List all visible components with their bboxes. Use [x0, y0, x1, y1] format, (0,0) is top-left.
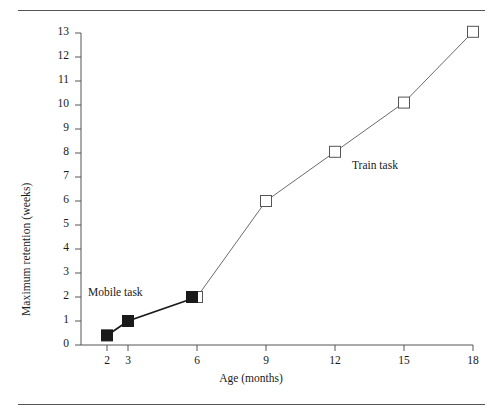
figure-container: Maximum retention (weeks) Age (months) 0… [0, 0, 502, 414]
y-tick-label: 4 [47, 241, 69, 253]
axes-group [81, 33, 473, 345]
data-point-train-task [261, 196, 272, 207]
y-tick-label: 0 [47, 337, 69, 349]
tick-marks-group [75, 33, 473, 351]
x-tick-label: 15 [392, 354, 416, 366]
y-tick-label: 5 [47, 217, 69, 229]
chart-plot-area [0, 0, 502, 414]
y-tick-label: 9 [47, 121, 69, 133]
y-tick-label: 8 [47, 145, 69, 157]
series-label-mobile-task: Mobile task [88, 286, 143, 298]
x-tick-label: 18 [461, 354, 485, 366]
y-tick-label: 12 [47, 49, 69, 61]
y-tick-label: 2 [47, 289, 69, 301]
y-tick-label: 3 [47, 265, 69, 277]
data-point-mobile-task [102, 330, 113, 341]
y-tick-label: 6 [47, 193, 69, 205]
y-tick-label: 1 [47, 313, 69, 325]
data-point-train-task [468, 26, 479, 37]
x-tick-label: 9 [254, 354, 278, 366]
y-tick-label: 10 [47, 97, 69, 109]
data-point-train-task [330, 146, 341, 157]
x-axis-title: Age (months) [0, 372, 502, 384]
x-tick-label: 3 [116, 354, 140, 366]
data-point-mobile-task [123, 316, 134, 327]
x-tick-label: 6 [185, 354, 209, 366]
y-tick-label: 7 [47, 169, 69, 181]
y-tick-label: 13 [47, 25, 69, 37]
data-point-mobile-task [187, 292, 198, 303]
data-series-group [102, 26, 479, 341]
y-tick-label: 11 [47, 73, 69, 85]
x-tick-label: 12 [323, 354, 347, 366]
series-label-train-task: Train task [352, 159, 398, 171]
data-point-train-task [399, 97, 410, 108]
y-axis-title: Maximum retention (weeks) [20, 183, 32, 316]
